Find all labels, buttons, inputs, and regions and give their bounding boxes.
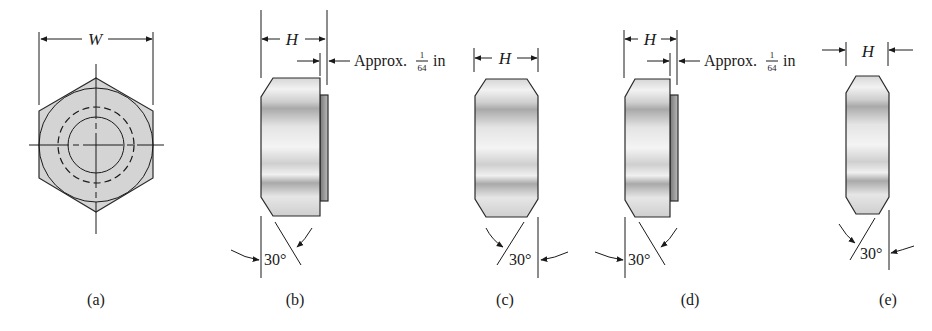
w-label: W [88, 30, 104, 49]
panel-b: H Approx. 1 64 in 30° (b) [231, 10, 445, 309]
angle-arrow-left [839, 224, 855, 243]
caption-a: (a) [87, 291, 105, 309]
h-label: H [643, 30, 658, 49]
caption-c: (c) [496, 291, 514, 309]
nut-body-side [625, 79, 670, 217]
fraction-denominator: 64 [768, 63, 778, 73]
caption-e: (e) [879, 291, 897, 309]
nut-body-side [261, 78, 320, 216]
caption-b: (b) [286, 291, 305, 309]
panel-d: H Approx. 1 64 in 30° (d) [595, 30, 795, 309]
fraction-denominator: 64 [418, 63, 428, 73]
caption-d: (d) [681, 291, 700, 309]
unit-label: in [783, 52, 795, 69]
hex-nut-diagram: W (a) H Approx. 1 64 in 30° (b) [0, 0, 932, 331]
h-label: H [498, 49, 513, 68]
fraction-numerator: 1 [770, 50, 775, 60]
angle-arrow-right [297, 228, 312, 247]
angle-label: 30° [509, 251, 531, 268]
washer-face [320, 95, 328, 201]
angle-arrow-right [661, 228, 677, 247]
h-label: H [285, 30, 300, 49]
panel-c: H 30° (c) [474, 48, 568, 309]
angle-arrow-left [595, 252, 623, 260]
panel-e: H 30° (e) [822, 42, 914, 309]
fraction-numerator: 1 [420, 50, 425, 60]
panel-a: W (a) [29, 30, 164, 309]
angle-label: 30° [264, 251, 286, 268]
angle-arrow-left [486, 228, 503, 247]
unit-label: in [433, 52, 445, 69]
nut-body-side [475, 79, 538, 217]
angle-label: 30° [628, 251, 650, 268]
angle-arrow-left [231, 250, 259, 260]
h-label: H [861, 42, 876, 61]
approx-label: Approx. [704, 52, 757, 70]
nut-body-side [846, 76, 889, 214]
angle-arrow-right [541, 252, 568, 260]
washer-face [670, 95, 678, 201]
approx-label: Approx. [354, 52, 407, 70]
angle-arrow-right [891, 246, 914, 253]
angle-label: 30° [860, 245, 882, 262]
